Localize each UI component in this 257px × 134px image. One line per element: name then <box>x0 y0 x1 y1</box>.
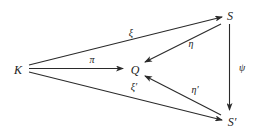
label-psi: ψ <box>239 63 245 73</box>
arrow-s-to-q <box>145 24 221 62</box>
node-s-prime: S′ <box>228 116 237 128</box>
arrow-k-to-s-prime <box>29 72 222 120</box>
label-pi: π <box>89 55 94 65</box>
arrow-s-prime-to-q <box>145 76 221 115</box>
label-xi: ξ <box>129 28 133 38</box>
label-eta: η <box>189 39 194 49</box>
node-q: Q <box>131 64 140 76</box>
node-s: S <box>227 10 233 22</box>
commutative-diagram: K Q S S′ ξ π ξ′ η η′ ψ <box>0 0 257 134</box>
diagram-edges <box>0 0 257 134</box>
node-k: K <box>14 64 22 76</box>
label-xi-prime: ξ′ <box>131 82 137 92</box>
label-eta-prime: η′ <box>191 85 198 95</box>
